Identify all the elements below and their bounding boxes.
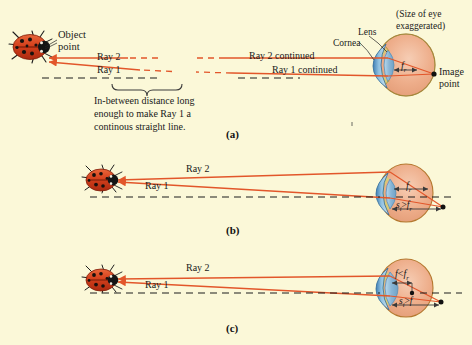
image-distance-compare-subscript-b: r	[410, 205, 413, 212]
panel-letter-a: (a)	[226, 128, 239, 140]
ray-1-label-b: Ray 1	[145, 180, 169, 191]
brace-caption-line-1: In-between distance long	[94, 95, 195, 108]
ray-1-label-c: Ray 1	[145, 279, 169, 290]
image-point-line-2: point	[439, 78, 464, 90]
ray-1-continued-label-a: Ray 1 continued	[272, 64, 338, 75]
size-of-eye-note-a: (Size of eye exaggerated)	[396, 9, 445, 33]
lens-label-a: Lens	[358, 27, 376, 38]
focal-length-label-c: f<fr	[395, 268, 409, 281]
ladybug-illustration-a	[9, 31, 52, 63]
image-distance-label-b: si>fr	[396, 200, 412, 212]
in-between-distance-caption-a: In-between distance long enough to make …	[94, 95, 195, 133]
ray-1-label-a: Ray 1	[97, 64, 121, 75]
focal-length-label-b: fr	[406, 180, 411, 193]
panel-letter-b: (b)	[226, 224, 239, 236]
panel-b-graphics	[82, 164, 455, 222]
image-point-line-1: Image	[439, 66, 464, 78]
brace-caption-line-2: enough to make Ray 1 a	[94, 108, 195, 121]
ray-2-label-b: Ray 2	[186, 163, 210, 174]
cornea-label-a: Cornea	[333, 38, 360, 49]
object-point-label-a: Object point	[58, 29, 86, 53]
ray-2-label-c: Ray 2	[186, 262, 210, 273]
focal-subscript-b: r	[409, 186, 412, 193]
image-distance-compare-symbol-c: f	[410, 296, 413, 306]
focal-compare-subscript-c: r	[406, 274, 409, 281]
ray-2-label-a: Ray 2	[97, 51, 121, 62]
size-note-line-2: exaggerated)	[396, 21, 445, 33]
optics-ray-diagram-figure: Object point Ray 2 Ray 1 Ray 2 continued…	[0, 0, 472, 345]
ladybug-illustration-c	[82, 265, 122, 293]
eye-illustration-b	[376, 164, 433, 222]
object-point-line2: point	[58, 41, 86, 53]
focal-subscript-a: r	[404, 66, 407, 73]
image-point-label-a: Image point	[439, 66, 464, 90]
object-point-line1: Object	[58, 29, 86, 41]
focal-length-label-a: fr	[401, 60, 406, 73]
ray-2-continued-label-a: Ray 2 continued	[249, 50, 315, 61]
panel-letter-c: (c)	[226, 322, 238, 334]
size-note-line-1: (Size of eye	[396, 9, 445, 21]
image-distance-label-c: si>f	[399, 296, 413, 308]
brace-caption-line-3: continous straight line.	[94, 121, 195, 134]
ladybug-illustration-b	[82, 165, 122, 193]
